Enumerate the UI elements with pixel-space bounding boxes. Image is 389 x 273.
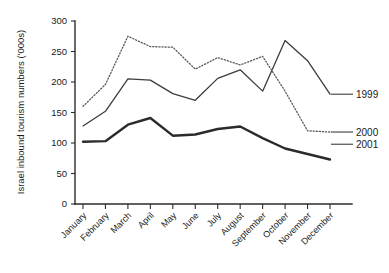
x-axis-ticks <box>83 204 330 209</box>
y-tick-label: 300 <box>51 15 67 26</box>
series-line-2000 <box>83 36 330 132</box>
x-tick-label: April <box>136 210 156 230</box>
y-tick-label: 250 <box>51 46 67 57</box>
series-end-labels: 199920002001 <box>331 89 379 150</box>
y-tick-label: 50 <box>56 168 67 179</box>
line-chart: Israel inbound tourism numbers ('000s) 0… <box>0 0 389 273</box>
series-lines <box>83 36 330 159</box>
y-axis-title: Israel inbound tourism numbers ('000s) <box>15 30 26 194</box>
chart-container: Israel inbound tourism numbers ('000s) 0… <box>0 0 389 273</box>
y-axis-title-text: Israel inbound tourism numbers ('000s) <box>15 30 26 194</box>
series-label-1999: 1999 <box>356 89 379 100</box>
series-line-2001 <box>83 118 330 159</box>
series-label-2001: 2001 <box>356 139 379 150</box>
x-tick-label: March <box>109 210 134 235</box>
series-label-2000: 2000 <box>356 127 379 138</box>
y-axis-ticks: 050100150200250300 <box>51 15 75 209</box>
y-tick-label: 200 <box>51 76 67 87</box>
x-tick-label: July <box>205 210 224 229</box>
y-tick-label: 0 <box>62 198 67 209</box>
x-axis-labels: JanuaryFebruaryMarchAprilMayJuneJulyAugu… <box>59 210 336 249</box>
y-tick-label: 150 <box>51 107 67 118</box>
x-tick-label: May <box>159 210 178 229</box>
y-tick-label: 100 <box>51 137 67 148</box>
x-tick-label: June <box>180 210 201 231</box>
